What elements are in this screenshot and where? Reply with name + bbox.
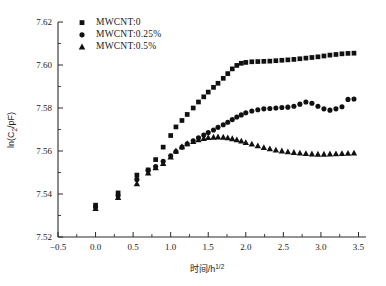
data-point	[249, 141, 255, 147]
legend-label: MWCNT:0.5%	[96, 41, 156, 51]
data-point	[234, 114, 239, 119]
x-axis-ticks	[58, 232, 358, 237]
data-point	[309, 151, 315, 157]
data-point	[321, 106, 326, 111]
data-point	[243, 60, 248, 65]
data-point	[351, 150, 357, 156]
data-point	[345, 150, 351, 156]
y-tick-label: 7.58	[36, 103, 52, 113]
data-point	[216, 81, 221, 86]
data-point	[327, 108, 332, 113]
data-point	[225, 71, 230, 76]
data-point	[274, 58, 279, 63]
data-point	[185, 112, 190, 117]
x-axis-title: 时间/h1/2	[190, 263, 225, 274]
y-tick-label: 7.54	[36, 189, 52, 199]
data-point	[292, 57, 297, 62]
data-point	[238, 138, 244, 144]
x-tick-label: 2.0	[240, 242, 252, 252]
legend-marker-square	[80, 20, 85, 25]
data-point	[345, 97, 350, 102]
x-tick-label: −0.5	[50, 242, 67, 252]
data-point	[255, 142, 261, 148]
data-point	[297, 102, 302, 107]
data-point	[255, 107, 260, 112]
data-point	[211, 85, 216, 90]
x-tick-label: 1.5	[203, 242, 215, 252]
series-1	[93, 51, 356, 208]
data-point	[327, 151, 333, 157]
data-point	[273, 147, 279, 153]
data-point	[174, 125, 179, 130]
data-point	[134, 180, 140, 186]
data-point	[328, 53, 333, 58]
data-point	[279, 148, 285, 154]
data-point	[229, 135, 235, 141]
data-point	[339, 150, 345, 156]
data-point	[215, 134, 221, 140]
x-axis-tick-labels: −0.50.00.51.01.52.02.53.03.5	[50, 242, 365, 252]
data-point	[309, 101, 314, 106]
data-point	[239, 112, 244, 117]
y-tick-label: 7.60	[36, 60, 52, 70]
data-point	[340, 51, 345, 56]
data-point	[333, 150, 339, 156]
y-tick-label: 7.62	[36, 17, 52, 27]
data-point	[339, 104, 344, 109]
data-point	[135, 173, 140, 178]
x-tick-label: 3.5	[353, 242, 365, 252]
data-point	[191, 106, 196, 111]
data-point	[298, 56, 303, 61]
x-tick-label: 0.5	[127, 242, 139, 252]
data-point	[225, 134, 231, 140]
data-point	[239, 61, 244, 66]
data-point	[225, 120, 230, 125]
data-point	[310, 55, 315, 60]
data-point	[249, 59, 254, 64]
data-point	[315, 151, 321, 157]
axes: −0.50.00.51.01.52.02.53.03.5 7.527.547.5…	[36, 17, 366, 252]
data-point	[206, 90, 211, 95]
y-tick-label: 7.56	[36, 146, 52, 156]
x-tick-label: 2.5	[278, 242, 290, 252]
data-point	[201, 94, 206, 99]
data-point	[230, 67, 235, 72]
data-point	[168, 133, 173, 138]
x-axis-title-text: 时间/h1/2	[190, 263, 225, 274]
data-point	[351, 96, 356, 101]
x-tick-label: 0.0	[90, 242, 102, 252]
data-point	[315, 104, 320, 109]
y-axis-title: ln(C2/pF)	[6, 112, 18, 148]
data-point	[215, 125, 220, 130]
data-point	[261, 59, 266, 64]
data-point	[211, 127, 216, 132]
data-point	[161, 145, 166, 150]
data-point	[273, 105, 278, 110]
chart-legend: MWCNT:0MWCNT:0.25%MWCNT:0.5%	[79, 17, 162, 51]
legend-marker-triangle	[79, 44, 85, 50]
data-point	[285, 105, 290, 110]
data-point	[280, 58, 285, 63]
data-point	[304, 56, 309, 61]
data-point	[153, 157, 158, 162]
x-tick-label: 3.0	[315, 242, 327, 252]
data-point	[321, 151, 327, 157]
data-point	[279, 105, 284, 110]
legend-marker-circle	[79, 32, 84, 37]
data-point	[334, 52, 339, 57]
data-point	[261, 144, 267, 150]
data-point	[234, 136, 240, 142]
series-3	[92, 134, 357, 211]
data-point	[285, 148, 291, 154]
data-point	[346, 51, 351, 56]
data-point	[267, 59, 272, 64]
chart-container: −0.50.00.51.01.52.02.53.03.5 7.527.547.5…	[0, 0, 386, 286]
data-point	[230, 117, 235, 122]
data-point	[297, 150, 303, 156]
y-tick-label: 7.52	[36, 232, 52, 242]
data-series-group	[92, 51, 357, 211]
y-axis-ticks	[58, 22, 63, 237]
data-point	[333, 106, 338, 111]
data-point	[291, 104, 296, 109]
data-point	[267, 106, 272, 111]
